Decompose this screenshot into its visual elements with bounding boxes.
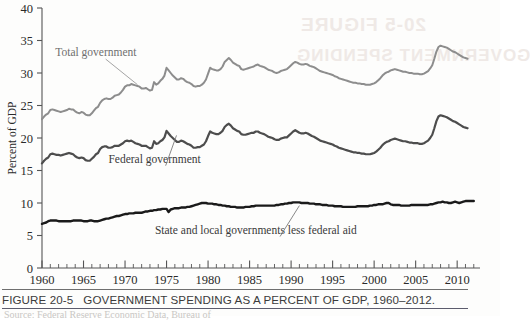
- figure-number: FIGURE 20-5: [2, 293, 73, 306]
- y-axis-tick-label: 25: [21, 99, 34, 113]
- y-axis-tick-label: 20: [21, 132, 34, 146]
- x-axis-tick-label: 1980: [196, 273, 221, 287]
- x-axis-tick-label: 1995: [320, 273, 345, 287]
- y-axis-tick-label: 30: [21, 67, 34, 81]
- series-line-3: [42, 201, 474, 224]
- y-axis-tick-label: 5: [27, 229, 33, 243]
- figure-source-note: Source: Federal Reserve Economic Data, B…: [4, 309, 211, 320]
- x-axis-tick-label: 2005: [403, 273, 428, 287]
- y-axis-tick-label: 40: [21, 2, 34, 16]
- series-annotation-label-3: State and local governments less federal…: [155, 224, 357, 237]
- series-annotation-label-2: Federal government: [108, 153, 201, 166]
- series-annotation-leader-1: [106, 59, 138, 85]
- x-axis-tick-label: 2000: [362, 273, 387, 287]
- series-line-2: [42, 115, 468, 163]
- x-axis-tick-label: 1970: [113, 273, 138, 287]
- x-axis-tick-label: 1965: [71, 273, 96, 287]
- x-axis-tick-label: 1990: [279, 273, 304, 287]
- y-axis-tick-label: 35: [21, 34, 34, 48]
- x-axis-tick-label: 2010: [445, 273, 470, 287]
- figure-caption: FIGURE 20-5 GOVERNMENT SPENDING AS A PER…: [2, 290, 498, 306]
- y-axis-tick-label: 10: [21, 197, 34, 211]
- y-axis-tick-label: 15: [21, 164, 34, 178]
- x-axis-tick-label: 1975: [154, 273, 179, 287]
- line-chart: 0510152025303540196019651970197519801985…: [0, 0, 500, 290]
- x-axis-tick-label: 1960: [30, 273, 55, 287]
- y-axis-title: Percent of GDP: [6, 102, 18, 175]
- series-annotation-label-1: Total government: [55, 46, 137, 59]
- x-axis-tick-label: 1985: [237, 273, 262, 287]
- chart-plot-area: 0510152025303540196019651970197519801985…: [0, 0, 500, 290]
- figure-title: GOVERNMENT SPENDING AS A PERCENT OF GDP,…: [83, 293, 435, 306]
